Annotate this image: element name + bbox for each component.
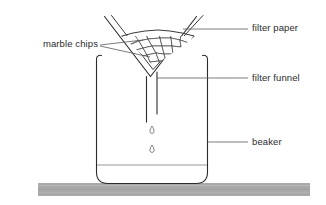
bench-fill (38, 183, 310, 196)
droplets (150, 126, 154, 152)
marble-chips (122, 30, 194, 68)
marble-chip (160, 38, 172, 46)
label-marble-chips: marble chips (43, 38, 98, 49)
marble-chip (173, 54, 180, 61)
marble-chip (172, 46, 181, 54)
label-filter-funnel: filter funnel (252, 72, 300, 83)
marble-chip (162, 46, 173, 54)
filter-funnel (105, 17, 197, 123)
marble-chips-pile (122, 30, 194, 68)
droplet (150, 145, 154, 152)
marble-chip (166, 61, 174, 67)
marble-chip (164, 54, 174, 61)
filtration-diagram: marble chips filter paper filter funnel … (0, 0, 326, 205)
marble-chip (180, 47, 188, 55)
droplet (150, 126, 154, 133)
marble-chip (145, 30, 160, 39)
label-filter-paper: filter paper (252, 22, 298, 33)
marble-chips-top-edge (122, 30, 194, 36)
bench-surface (38, 183, 310, 196)
diagram-canvas: marble chips filter paper filter funnel … (0, 0, 326, 205)
label-beaker: beaker (252, 136, 282, 147)
